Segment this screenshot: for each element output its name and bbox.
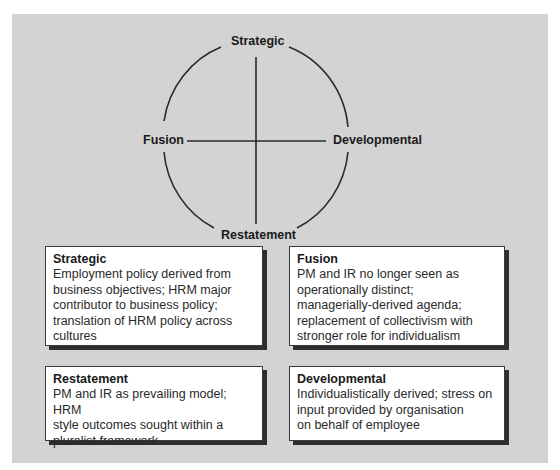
box-fusion: Fusion PM and IR no longer seen as opera…	[289, 246, 505, 346]
box-line: replacement of collectivism with	[297, 314, 497, 330]
label-strategic: Strategic	[231, 34, 285, 48]
box-title: Fusion	[297, 252, 497, 267]
arc-bottom-left	[164, 152, 214, 228]
box-line: on behalf of employee	[297, 418, 497, 434]
box-restatement: Restatement PM and IR as prevailing mode…	[45, 366, 263, 441]
box-line: Individualistically derived; stress on	[297, 387, 497, 403]
box-line: managerially-derived agenda;	[297, 298, 497, 314]
box-line: Employment policy derived from	[53, 267, 255, 283]
box-line: PM and IR as prevailing model; HRM	[53, 387, 255, 418]
box-line: input provided by organisation	[297, 403, 497, 419]
box-line: cultures	[53, 329, 255, 345]
box-line: contributor to business policy;	[53, 298, 255, 314]
box-line: style outcomes sought within a	[53, 418, 255, 434]
box-developmental: Developmental Individualistically derive…	[289, 366, 505, 441]
arc-top-right	[289, 47, 348, 127]
box-line: translation of HRM policy across	[53, 314, 255, 330]
box-title: Strategic	[53, 252, 255, 267]
box-title: Restatement	[53, 372, 255, 387]
box-line: pluralist framework	[53, 434, 255, 450]
arc-bottom-right	[297, 152, 348, 228]
label-developmental: Developmental	[333, 133, 422, 147]
box-line: operationally distinct;	[297, 283, 497, 299]
box-title: Developmental	[297, 372, 497, 387]
box-strategic: Strategic Employment policy derived from…	[45, 246, 263, 346]
box-line: PM and IR no longer seen as	[297, 267, 497, 283]
arc-top-left	[164, 47, 221, 121]
label-fusion: Fusion	[143, 133, 184, 147]
box-line: business objectives; HRM major	[53, 283, 255, 299]
label-restatement: Restatement	[221, 228, 296, 242]
box-line: stronger role for individualism	[297, 329, 497, 345]
